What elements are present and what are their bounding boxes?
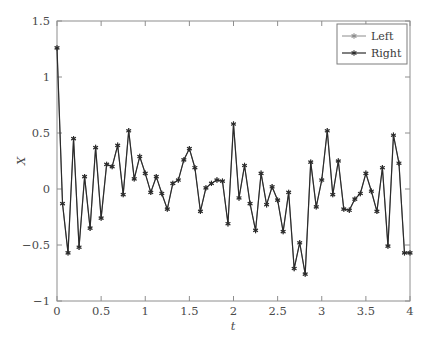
x-tick-label: 1.5 (180, 304, 198, 318)
y-axis-title: X (14, 156, 28, 166)
chart-figure: 00.511.522.533.54 −1−0.500.511.5 t X Lef… (0, 0, 435, 343)
y-tick-label: 0.5 (32, 126, 50, 140)
y-tick-label: 1.5 (32, 14, 50, 28)
x-tick-label: 1 (142, 304, 149, 318)
x-tick-label: 3 (318, 304, 325, 318)
x-tick-label: 0.5 (92, 304, 110, 318)
x-tick-label: 4 (406, 304, 413, 318)
x-tick-label: 2.5 (268, 304, 286, 318)
y-tick-label: −1 (33, 294, 50, 308)
x-axis-title: t (231, 319, 236, 333)
x-tick-label: 3.5 (357, 304, 375, 318)
chart-legend[interactable]: Left Right (337, 24, 407, 64)
x-tick-label: 0 (53, 304, 60, 318)
x-axis-tick-labels: 00.511.522.533.54 (53, 304, 413, 318)
line-chart: 00.511.522.533.54 −1−0.500.511.5 t X Lef… (0, 0, 435, 343)
legend-label-right: Right (371, 47, 402, 60)
x-tick-label: 2 (230, 304, 237, 318)
y-tick-label: 0 (43, 182, 50, 196)
y-tick-label: 1 (43, 70, 50, 84)
legend-label-left: Left (371, 30, 394, 43)
y-tick-label: −0.5 (22, 238, 50, 252)
